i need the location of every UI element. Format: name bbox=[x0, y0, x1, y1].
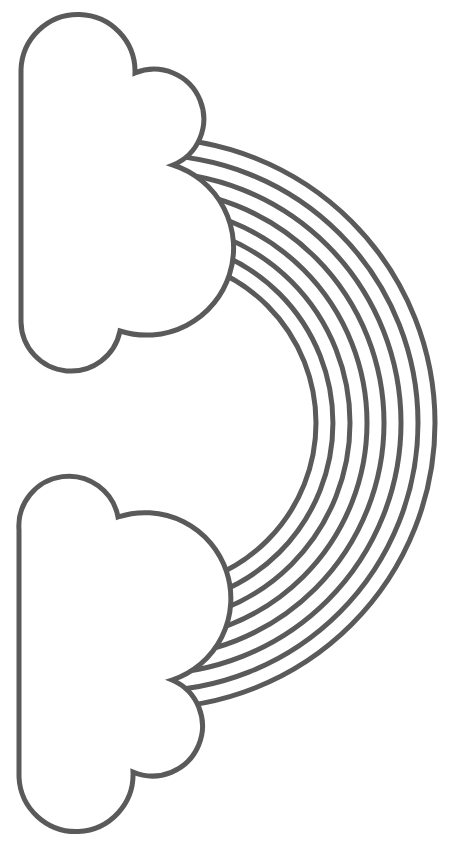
rainbow-illustration bbox=[0, 0, 451, 854]
coloring-page-canvas: Rainbow with two clouds coloring page bbox=[0, 0, 451, 854]
bottom-cloud bbox=[19, 476, 231, 831]
top-cloud bbox=[21, 14, 234, 371]
